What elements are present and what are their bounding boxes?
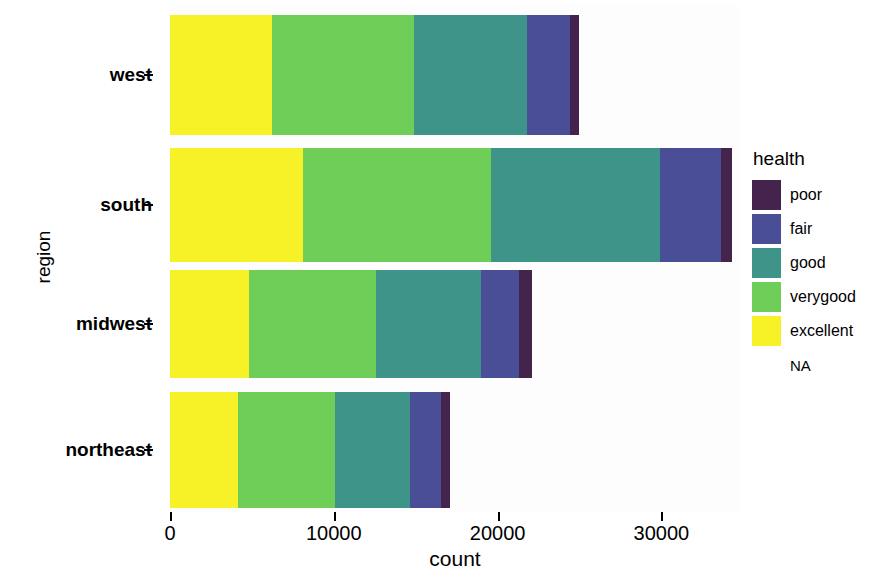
- y-tick-mark: [144, 204, 153, 206]
- y-tick-mark: [144, 323, 153, 325]
- bar-segment-fair[interactable]: [527, 15, 570, 135]
- stacked-bar-chart: region westsouthmidwestnortheast 0100002…: [0, 0, 874, 581]
- bar-segment-fair[interactable]: [481, 270, 519, 378]
- legend-swatch-verygood: [752, 282, 781, 312]
- legend-item-verygood[interactable]: verygood: [752, 280, 874, 314]
- x-tick-label: 10000: [306, 522, 362, 545]
- legend-item-poor[interactable]: poor: [752, 178, 874, 212]
- legend-title: health: [753, 148, 874, 170]
- x-tick-label: 0: [164, 522, 175, 545]
- bar-segment-fair[interactable]: [410, 392, 441, 508]
- legend-label-poor: poor: [790, 186, 822, 204]
- legend-label-verygood: verygood: [790, 288, 856, 306]
- bar-segment-good[interactable]: [414, 15, 527, 135]
- bar-segment-verygood[interactable]: [249, 270, 377, 378]
- bar-segment-fair[interactable]: [660, 148, 721, 262]
- legend-swatch-poor: [752, 180, 781, 210]
- legend-item-fair[interactable]: fair: [752, 212, 874, 246]
- bar-segment-poor[interactable]: [721, 148, 732, 262]
- x-tick-mark: [498, 512, 500, 521]
- bar-segment-good[interactable]: [491, 148, 660, 262]
- legend-label-fair: fair: [790, 220, 812, 238]
- legend-label-excellent: excellent: [790, 322, 853, 340]
- y-tick-label-northeast: northeast: [12, 439, 152, 461]
- bar-segment-verygood[interactable]: [238, 392, 335, 508]
- bar-segment-verygood[interactable]: [303, 148, 491, 262]
- bar-segment-good[interactable]: [335, 392, 410, 508]
- bar-segment-poor[interactable]: [441, 392, 450, 508]
- bar-segment-excellent[interactable]: [170, 15, 272, 135]
- x-tick-mark: [334, 512, 336, 521]
- legend: health poorfairgoodverygoodexcellentNA: [752, 148, 874, 382]
- y-axis-tick-labels: westsouthmidwestnortheast: [0, 0, 152, 520]
- y-tick-label-midwest: midwest: [12, 313, 152, 335]
- legend-item-good[interactable]: good: [752, 246, 874, 280]
- y-tick-label-west: west: [12, 64, 152, 86]
- legend-item-NA[interactable]: NA: [752, 348, 874, 382]
- x-tick-mark: [661, 512, 663, 521]
- legend-label-good: good: [790, 254, 826, 272]
- bar-row[interactable]: [170, 148, 732, 262]
- y-tick-mark: [144, 449, 153, 451]
- bar-segment-good[interactable]: [376, 270, 481, 378]
- bar-segment-poor[interactable]: [570, 15, 579, 135]
- legend-item-excellent[interactable]: excellent: [752, 314, 874, 348]
- bar-segment-verygood[interactable]: [272, 15, 415, 135]
- bar-segment-poor[interactable]: [519, 270, 532, 378]
- y-tick-mark: [144, 74, 153, 76]
- bar-row[interactable]: [170, 270, 532, 378]
- bar-segment-excellent[interactable]: [170, 148, 303, 262]
- y-tick-label-south: south: [12, 194, 152, 216]
- legend-items: poorfairgoodverygoodexcellentNA: [752, 178, 874, 382]
- x-tick-mark: [170, 512, 172, 521]
- bar-row[interactable]: [170, 392, 450, 508]
- x-axis: 0100002000030000: [170, 512, 740, 542]
- legend-swatch-fair: [752, 214, 781, 244]
- bar-segment-excellent[interactable]: [170, 270, 249, 378]
- bar-segment-excellent[interactable]: [170, 392, 238, 508]
- x-axis-title: count: [170, 547, 740, 571]
- plot-panel: [170, 6, 740, 512]
- bar-row[interactable]: [170, 15, 579, 135]
- legend-swatch-excellent: [752, 316, 781, 346]
- legend-swatch-good: [752, 248, 781, 278]
- legend-label-NA: NA: [790, 357, 811, 374]
- x-tick-label: 30000: [634, 522, 690, 545]
- x-tick-label: 20000: [470, 522, 526, 545]
- legend-swatch-NA: [752, 350, 781, 380]
